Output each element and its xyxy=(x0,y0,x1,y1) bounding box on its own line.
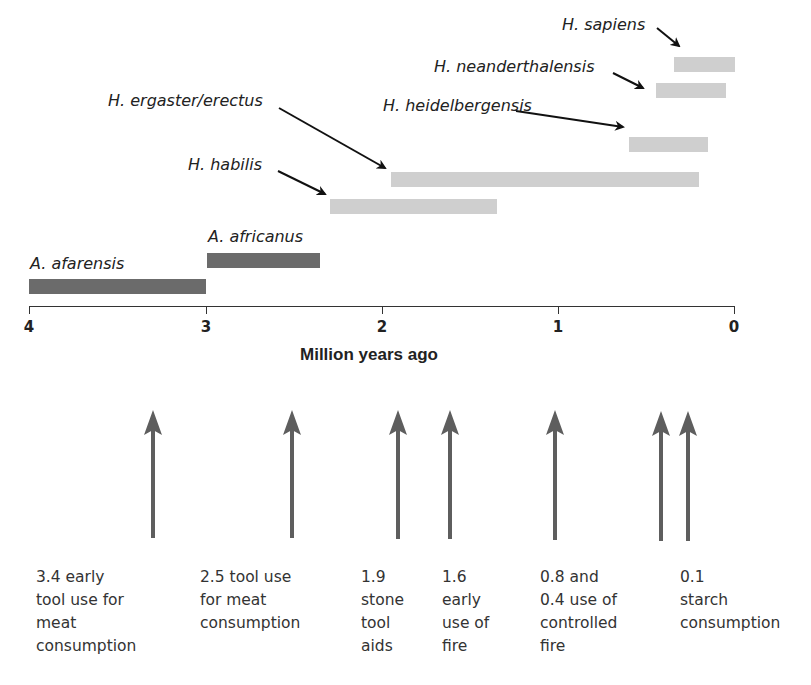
pointer-arrow-h-neanderthalensis xyxy=(613,73,643,88)
x-tick-label-3: 3 xyxy=(201,318,211,336)
x-tick-3 xyxy=(206,306,207,314)
x-tick-label-1: 1 xyxy=(553,318,563,336)
event-text-1-6: 1.6 early use of fire xyxy=(442,566,489,658)
pointer-arrow-h-heidelbergensis xyxy=(516,111,623,127)
x-tick-1 xyxy=(558,306,559,314)
event-text-0-1: 0.1 starch consumption xyxy=(680,566,780,635)
event-arrow-0-4 xyxy=(652,411,670,541)
event-arrow-1-6 xyxy=(441,410,459,539)
event-arrow-3-4 xyxy=(144,410,162,538)
x-tick-4 xyxy=(29,306,30,314)
pointer-arrows xyxy=(278,28,679,194)
event-text-2-5: 2.5 tool use for meat consumption xyxy=(200,566,300,635)
event-text-0-8-0-4: 0.8 and 0.4 use of controlled fire xyxy=(540,566,617,658)
event-arrows xyxy=(144,410,697,541)
event-text-1-9: 1.9 stone tool aids xyxy=(361,566,404,658)
x-tick-label-2: 2 xyxy=(377,318,387,336)
event-text-3-4: 3.4 early tool use for meat consumption xyxy=(36,566,136,658)
event-arrow-0-1 xyxy=(679,411,697,541)
event-arrow-0-8 xyxy=(546,410,564,540)
x-tick-0 xyxy=(734,306,735,314)
x-tick-label-4: 4 xyxy=(24,318,34,336)
pointer-arrow-h-sapiens xyxy=(657,28,679,46)
event-arrow-1-9 xyxy=(389,410,407,539)
x-tick-label-0: 0 xyxy=(729,318,739,336)
pointer-arrow-h-ergaster-erectus xyxy=(279,108,385,168)
x-axis-title: Million years ago xyxy=(300,345,438,365)
x-tick-2 xyxy=(382,306,383,314)
event-arrow-2-5 xyxy=(283,410,301,538)
pointer-arrow-h-habilis xyxy=(278,171,325,194)
